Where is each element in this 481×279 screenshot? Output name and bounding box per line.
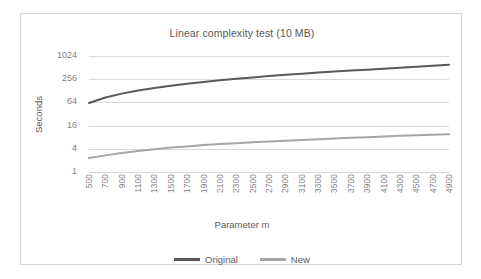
- x-axis-tick-label: 2900: [281, 174, 290, 193]
- y-axis-tick-label: 256: [37, 73, 77, 83]
- series-line-new: [89, 134, 449, 158]
- legend-entry-new[interactable]: New: [260, 254, 310, 265]
- legend-label: New: [291, 254, 310, 265]
- y-axis-tick-label: 1024: [37, 50, 77, 60]
- x-axis-tick-label: 1700: [183, 174, 192, 193]
- legend-entry-original[interactable]: Original: [174, 254, 238, 265]
- x-axis-tick-label: 500: [85, 174, 94, 188]
- x-axis-title: Parameter m: [21, 219, 463, 230]
- y-axis-title: Seconds: [33, 85, 44, 145]
- series-line-original: [89, 65, 449, 103]
- x-axis-tick-label: 3100: [298, 174, 307, 193]
- legend-label: Original: [205, 254, 238, 265]
- x-axis-tick-label: 1900: [200, 174, 209, 193]
- x-axis-tick-label: 2500: [249, 174, 258, 193]
- y-axis-tick-label: 64: [37, 96, 77, 106]
- x-axis-tick-label: 4900: [445, 174, 454, 193]
- plot-area: 1416642561024: [89, 56, 449, 172]
- x-axis-tick-label: 4500: [412, 174, 421, 193]
- x-axis-tick-label: 4700: [429, 174, 438, 193]
- x-axis-tick-label: 700: [101, 174, 110, 188]
- chart-container: Linear complexity test (10 MB) Seconds 1…: [20, 13, 462, 265]
- y-axis-tick-label: 4: [37, 143, 77, 153]
- y-axis-tick-label: 1: [37, 166, 77, 176]
- x-axis-tick-label: 3700: [347, 174, 356, 193]
- legend-swatch-icon: [260, 258, 286, 261]
- x-axis-tick-label: 4300: [396, 174, 405, 193]
- x-axis-tick-label: 3300: [314, 174, 323, 193]
- x-axis-tick-label: 1100: [134, 174, 143, 192]
- chart-title: Linear complexity test (10 MB): [21, 27, 463, 39]
- x-axis-tick-label: 3900: [363, 174, 372, 193]
- y-axis-tick-label: 16: [37, 120, 77, 130]
- x-axis-tick-labels: 5007009001100130015001700190021002300250…: [89, 174, 449, 216]
- x-axis-tick-label: 2700: [265, 174, 274, 193]
- legend-swatch-icon: [174, 258, 200, 261]
- x-axis-tick-label: 900: [118, 174, 127, 188]
- series-lines: [89, 56, 449, 172]
- x-axis-tick-label: 3500: [330, 174, 339, 193]
- chart-legend: OriginalNew: [21, 254, 463, 265]
- x-axis-tick-label: 2100: [216, 174, 225, 193]
- gridline: [89, 172, 449, 173]
- x-axis-tick-label: 2300: [232, 174, 241, 193]
- x-axis-tick-label: 1500: [167, 174, 176, 193]
- x-axis-tick-label: 1300: [150, 174, 159, 193]
- x-axis-tick-label: 4100: [380, 174, 389, 193]
